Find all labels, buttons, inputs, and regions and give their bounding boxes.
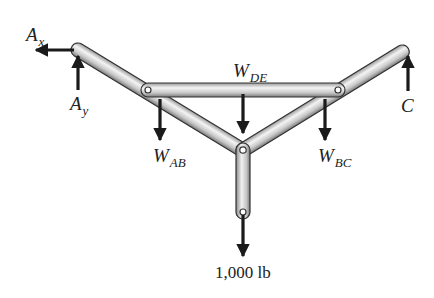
label-ax: Ax xyxy=(26,25,43,44)
label-ay: Ay xyxy=(70,94,87,113)
member-bc xyxy=(233,42,412,159)
label-c: C xyxy=(401,96,414,115)
frame-diagram xyxy=(0,0,434,298)
label-wbc: WBC xyxy=(318,146,350,165)
label-load: 1,000 lb xyxy=(215,264,271,281)
pin-b-icon xyxy=(240,147,246,153)
label-wab: WAB xyxy=(153,146,185,165)
label-wde: WDE xyxy=(233,61,266,80)
member-hanger xyxy=(236,143,250,219)
pin-bottom-icon xyxy=(240,209,246,215)
pin-e-icon xyxy=(335,87,341,93)
pin-d-icon xyxy=(145,87,151,93)
